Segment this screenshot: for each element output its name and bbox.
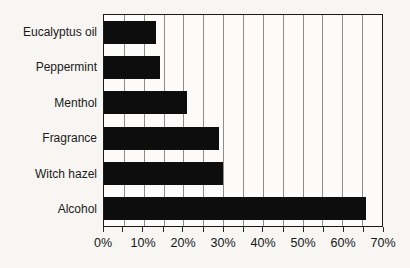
x-tick <box>243 227 244 232</box>
x-tick <box>163 227 164 232</box>
x-tick <box>283 227 284 232</box>
category-labels: Eucalyptus oilPeppermintMentholFragrance… <box>0 14 97 227</box>
bar-row <box>104 156 382 191</box>
x-tick-label: 40% <box>250 236 275 250</box>
bar-row <box>104 85 382 120</box>
x-tick-label: 30% <box>210 236 235 250</box>
x-tick-label: 60% <box>330 236 355 250</box>
category-label: Menthol <box>0 85 97 121</box>
category-label: Witch hazel <box>0 156 97 192</box>
bar-menthol <box>104 91 187 114</box>
x-tick <box>262 227 263 232</box>
bar-alcohol <box>104 197 366 220</box>
category-label: Eucalyptus oil <box>0 14 97 50</box>
bar-row <box>104 50 382 85</box>
x-tick-label: 10% <box>130 236 155 250</box>
bar-row <box>104 121 382 156</box>
x-tick <box>103 227 104 232</box>
x-tick <box>142 227 143 232</box>
bar-peppermint <box>104 56 160 79</box>
x-tick-label: 0% <box>94 236 112 250</box>
category-label: Peppermint <box>0 50 97 86</box>
bar-row <box>104 191 382 226</box>
bar-row <box>104 15 382 50</box>
x-axis-ticks <box>103 227 383 233</box>
bar-eucalyptus-oil <box>104 21 156 44</box>
bars <box>104 15 382 226</box>
x-tick-label: 70% <box>370 236 395 250</box>
plot-area <box>103 14 383 227</box>
x-tick <box>203 227 204 232</box>
x-tick-label: 50% <box>290 236 315 250</box>
x-tick <box>383 227 384 232</box>
x-tick <box>343 227 344 232</box>
bar-witch-hazel <box>104 162 223 185</box>
x-axis-labels: 0%10%20%30%40%50%60%70% <box>103 236 383 252</box>
category-label: Fragrance <box>0 121 97 157</box>
x-tick <box>182 227 183 232</box>
bar-chart: Eucalyptus oilPeppermintMentholFragrance… <box>0 0 410 268</box>
category-label: Alcohol <box>0 192 97 228</box>
x-tick <box>363 227 364 232</box>
x-tick <box>323 227 324 232</box>
bar-fragrance <box>104 127 219 150</box>
x-tick <box>303 227 304 232</box>
x-tick-label: 20% <box>170 236 195 250</box>
x-tick <box>122 227 123 232</box>
x-tick <box>223 227 224 232</box>
